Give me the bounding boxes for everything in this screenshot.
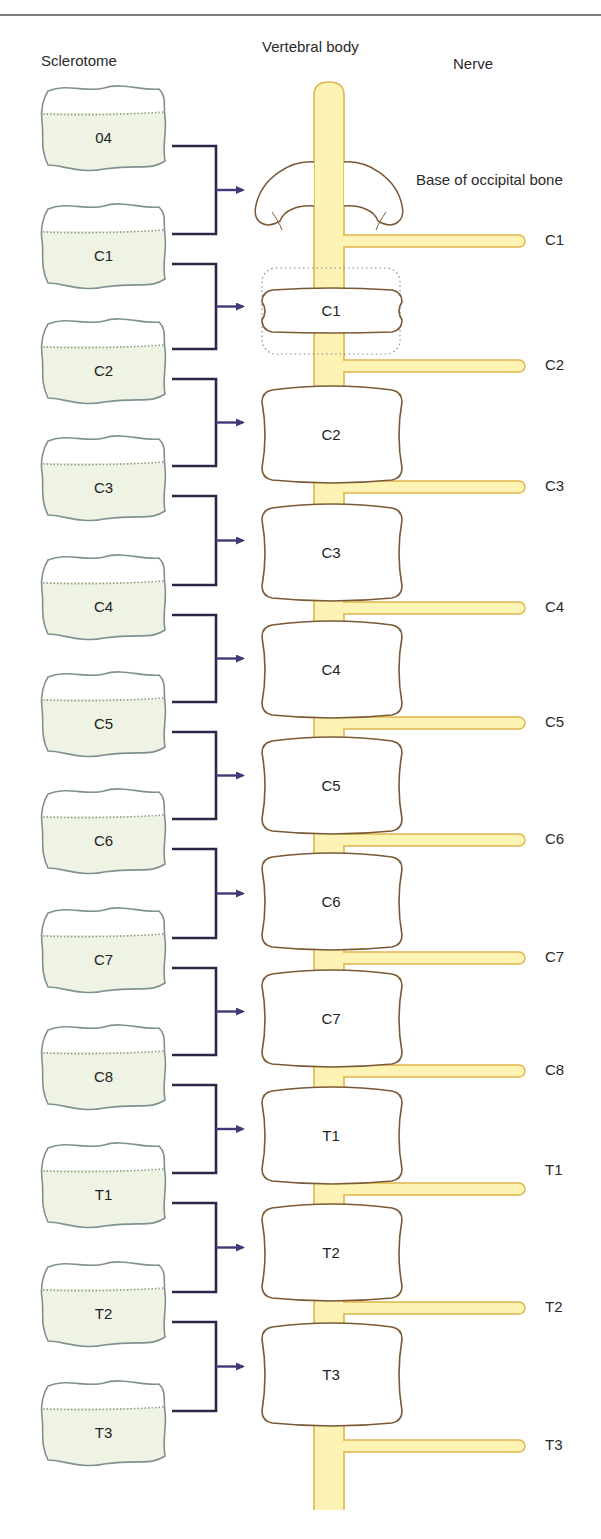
occipital-bone-right [344, 162, 403, 225]
sclerotome-diagram: C1C2C3C4C5C6C7T1T2T3 04C1C2C3C4C5C6C7C8T… [0, 0, 601, 1539]
vertebral-body-label: C5 [321, 777, 340, 794]
nerve-root [344, 1065, 525, 1077]
vertebral-body-label: T3 [322, 1366, 340, 1383]
vertebral-body-label: T2 [322, 1244, 340, 1261]
fusion-bracket [172, 1085, 216, 1173]
nerve-root [344, 717, 525, 729]
sclerotome-label: T3 [95, 1424, 113, 1441]
sclerotome-label: T1 [95, 1186, 113, 1203]
nerve-label: C3 [545, 477, 564, 494]
nerve-root [344, 481, 525, 493]
fusion-bracket [172, 1203, 216, 1292]
nerve-label: C6 [545, 830, 564, 847]
nerve-root [344, 1440, 525, 1452]
nerve-label: T3 [545, 1436, 563, 1453]
sclerotomes: 04C1C2C3C4C5C6C7C8T1T2T3 [37, 86, 170, 1490]
fusion-bracket [172, 968, 216, 1055]
sclerotome-label: C5 [94, 715, 113, 732]
nerve-root [344, 360, 525, 372]
nerve-root [344, 834, 525, 846]
fusion-bracket [172, 496, 216, 585]
occipital-bone-left [255, 162, 314, 225]
sclerotome-label: T2 [95, 1305, 113, 1322]
nerve-root [344, 235, 525, 247]
nerve-label: C2 [545, 356, 564, 373]
fusion-brackets [172, 146, 243, 1411]
sclerotome-label: C2 [94, 362, 113, 379]
fusion-bracket [172, 379, 216, 466]
vertebral-body-label: C6 [321, 893, 340, 910]
sclerotome-label: C7 [94, 951, 113, 968]
nerve-root [344, 1302, 525, 1314]
fusion-bracket [172, 732, 216, 819]
sclerotome-label: C3 [94, 479, 113, 496]
fusion-bracket [172, 849, 216, 938]
fusion-bracket [172, 264, 216, 349]
vertebral-body-label: T1 [322, 1127, 340, 1144]
vertebral-body-label: C4 [321, 661, 340, 678]
nerve-label: C1 [545, 231, 564, 248]
nerve-root [344, 1183, 525, 1195]
sclerotome-label: 04 [95, 129, 112, 146]
nerve-label: C8 [545, 1061, 564, 1078]
vertebral-body-label: C3 [321, 544, 340, 561]
vertebral-body-label: C1 [321, 302, 340, 319]
sclerotome-label: C6 [94, 832, 113, 849]
fusion-bracket [172, 615, 216, 702]
nerve-root [344, 952, 525, 964]
nerve-label: C7 [545, 948, 564, 965]
vertebral-body-label: C2 [321, 426, 340, 443]
vertebral-body-label: C7 [321, 1010, 340, 1027]
nerve-label: T1 [545, 1161, 563, 1178]
nerve-label: T2 [545, 1298, 563, 1315]
fusion-bracket [172, 146, 216, 234]
fusion-bracket [172, 1322, 216, 1411]
nerve-root [344, 602, 525, 614]
nerve-label: C5 [545, 713, 564, 730]
nerve-label: C4 [545, 598, 564, 615]
sclerotome-label: C8 [94, 1068, 113, 1085]
sclerotome-label: C4 [94, 598, 113, 615]
sclerotome-label: C1 [94, 247, 113, 264]
